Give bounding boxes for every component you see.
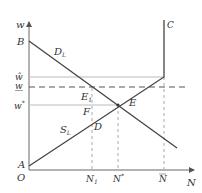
point-b-label: B — [16, 36, 24, 47]
point-d-label: D — [93, 121, 102, 132]
svg-text:N: N — [158, 174, 168, 184]
w-underline-label: w — [15, 81, 23, 91]
point-e-label: E — [128, 97, 137, 108]
n-star-label: N* — [112, 172, 124, 184]
point-a-label: A — [17, 159, 25, 170]
point-f-label: F — [82, 106, 91, 117]
svg-text:w: w — [15, 81, 23, 91]
y-axis-label: w — [16, 19, 25, 30]
demand-curve-label: DL — [53, 46, 66, 58]
x-axis-label: N — [186, 177, 197, 188]
supply-curve — [29, 20, 164, 166]
equilibrium-point — [116, 103, 119, 106]
n-bar-label: N — [158, 174, 168, 184]
origin-label: O — [17, 172, 25, 183]
labor-market-diagram: w N O B A C E E1 F D DL SL ŵ w w* N1 N* … — [0, 0, 202, 193]
point-c-label: C — [167, 20, 174, 30]
supply-curve-label: SL — [60, 124, 71, 136]
n1-label: N1 — [85, 174, 98, 185]
w-star-label: w* — [14, 99, 25, 111]
point-e1-label: E1 — [80, 91, 92, 103]
demand-curve — [29, 41, 177, 148]
